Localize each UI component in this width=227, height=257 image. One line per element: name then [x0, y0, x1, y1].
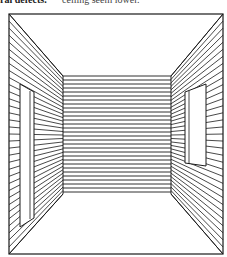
- left-wall-stripe: [9, 177, 63, 219]
- right-window: [185, 84, 206, 166]
- left-wall-stripe: [9, 184, 63, 233]
- left-wall-stripe: [9, 138, 63, 141]
- left-wall-stripe: [9, 127, 63, 132]
- right-wall-stripe: [171, 184, 223, 233]
- left-window: [20, 84, 34, 227]
- left-wall-stripe: [9, 56, 63, 96]
- left-wall-stripe: [9, 120, 63, 128]
- right-wall-stripe: [171, 14, 223, 76]
- left-wall-stripe: [9, 14, 63, 76]
- left-wall-stripe: [9, 134, 63, 135]
- right-wall-stripe: [171, 187, 223, 240]
- room-perspective-drawing: [0, 0, 227, 257]
- left-wall-stripe: [9, 85, 63, 111]
- left-wall-stripe: [9, 187, 63, 240]
- right-wall-stripe: [171, 177, 223, 219]
- left-wall-stripe: [9, 156, 63, 177]
- left-wall-stripe: [9, 35, 63, 86]
- right-wall-stripe: [171, 21, 223, 79]
- left-wall-stripe: [9, 149, 63, 162]
- right-wall-stripe: [171, 35, 223, 86]
- left-wall-stripe: [9, 21, 63, 79]
